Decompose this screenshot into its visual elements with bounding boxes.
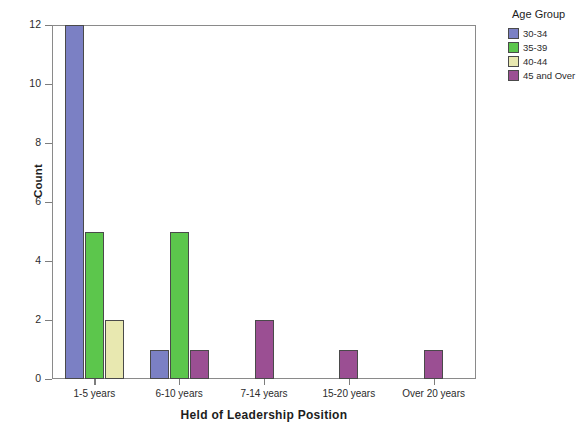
- x-tick-line: [434, 379, 435, 385]
- y-tick-line: [45, 320, 52, 321]
- legend-swatch-icon: [508, 28, 519, 39]
- bar: [150, 350, 169, 380]
- y-tick-line: [45, 84, 52, 85]
- y-tick-label: 0: [0, 372, 41, 384]
- legend-item: 40-44: [508, 55, 587, 68]
- y-tick-line: [45, 261, 52, 262]
- y-tick-label: 10: [0, 77, 41, 89]
- bar: [255, 320, 274, 379]
- y-tick-line: [45, 202, 52, 203]
- bar-chart: Count 024681012 1-5 years6-10 years7-14 …: [0, 0, 587, 434]
- x-axis-title: Held of Leadership Position: [52, 408, 476, 422]
- legend: Age Group 30-3435-3940-4445 and Over: [508, 8, 587, 83]
- y-tick-label: 6: [0, 195, 41, 207]
- legend-item: 30-34: [508, 27, 587, 40]
- legend-item: 45 and Over: [508, 69, 587, 82]
- y-tick-line: [45, 379, 52, 380]
- y-tick-label: 4: [0, 254, 41, 266]
- bar: [65, 25, 84, 379]
- legend-title: Age Group: [512, 8, 587, 20]
- bar: [85, 232, 104, 380]
- y-tick-line: [45, 143, 52, 144]
- x-tick-line: [94, 379, 95, 385]
- bar: [170, 232, 189, 380]
- y-tick-label: 8: [0, 136, 41, 148]
- legend-item-label: 40-44: [523, 56, 547, 67]
- y-tick-label: 2: [0, 313, 41, 325]
- legend-swatch-icon: [508, 42, 519, 53]
- legend-swatch-icon: [508, 56, 519, 67]
- legend-swatch-icon: [508, 70, 519, 81]
- legend-item-label: 35-39: [523, 42, 547, 53]
- bar: [339, 350, 358, 380]
- legend-item-label: 30-34: [523, 28, 547, 39]
- bar: [105, 320, 124, 379]
- bar: [424, 350, 443, 380]
- bar: [190, 350, 209, 380]
- legend-item-label: 45 and Over: [523, 70, 575, 81]
- x-tick-line: [179, 379, 180, 385]
- legend-item: 35-39: [508, 41, 587, 54]
- x-tick-label: Over 20 years: [379, 388, 489, 399]
- legend-items: 30-3435-3940-4445 and Over: [508, 27, 587, 82]
- y-tick-line: [45, 25, 52, 26]
- x-tick-line: [349, 379, 350, 385]
- x-tick-line: [264, 379, 265, 385]
- y-tick-label: 12: [0, 18, 41, 30]
